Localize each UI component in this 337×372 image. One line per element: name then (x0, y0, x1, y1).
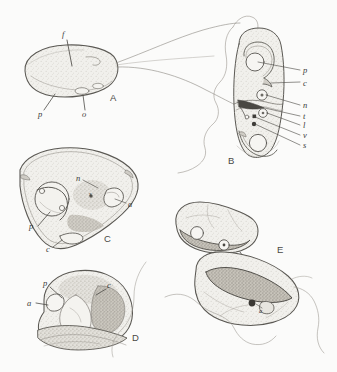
panel-a-callout-p: p (38, 110, 42, 119)
panel-d-callout-c: c (107, 281, 111, 290)
panel-c-callout-a: a (128, 200, 132, 209)
panel-b-callout-c: c (303, 79, 307, 88)
panel-d-artwork (36, 262, 146, 357)
panel-b-artwork (178, 16, 300, 173)
panel-c-callout-s: s (89, 191, 92, 198)
panel-b-callout-n: n (303, 101, 307, 110)
panel-e-callout-a: a (259, 308, 262, 315)
panel-c-artwork (20, 148, 138, 249)
panel-label-e: E (277, 245, 283, 255)
panel-label-d: D (132, 333, 139, 343)
panel-a-callout-o: o (82, 110, 86, 119)
panel-label-a: A (110, 93, 116, 103)
panel-a-artwork (25, 23, 240, 110)
panel-b-callout-s: s (303, 141, 307, 150)
panel-c-callout-c: c (46, 245, 50, 254)
panel-d-callout-a: a (27, 299, 31, 308)
panel-c-callout-p: p (29, 222, 33, 231)
panel-b-callout-l: l (303, 121, 306, 130)
figure-artwork (0, 0, 337, 372)
panel-b-callout-v: v (303, 131, 307, 140)
panel-label-c: C (104, 234, 111, 244)
panel-e-artwork (165, 202, 324, 353)
panel-c-callout-n: n (76, 174, 80, 183)
panel-d-callout-p: p (43, 279, 47, 288)
panel-label-b: B (228, 156, 234, 166)
panel-b-callout-p: p (303, 66, 307, 75)
figure-plate: f p o A p c n t l v s B n a p c s C p a … (0, 0, 337, 372)
panel-a-callout-f: f (62, 30, 65, 39)
